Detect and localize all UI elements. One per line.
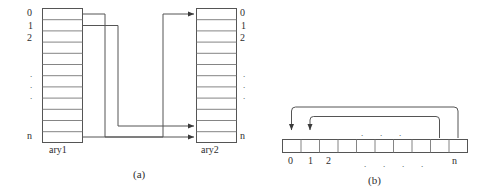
connection-0-to-n bbox=[83, 14, 195, 137]
panel-b-top-dot-3: . bbox=[399, 128, 401, 138]
ary1-name-label: ary1 bbox=[49, 145, 67, 155]
ary1-index-2: 2 bbox=[27, 33, 32, 43]
ary1-index-0: 0 bbox=[27, 8, 32, 18]
ary2-ellipsis-dots: . . . bbox=[243, 69, 245, 102]
ary1-ellipsis-dots: . . . bbox=[30, 69, 32, 102]
panel-b-bottom-dot-1: . bbox=[364, 159, 366, 169]
figure-container: 0 1 2 . . . n ary1 0 1 2 . . . n ary2 (a… bbox=[0, 0, 491, 194]
ary1-index-n: n bbox=[27, 131, 32, 141]
panel-b-bottom-dot-2: . bbox=[383, 159, 385, 169]
panel-b-top-dot-1: . bbox=[361, 128, 363, 138]
panel-b-bottom-dot-3: . bbox=[402, 159, 404, 169]
panel-b-connection-n1-to-1 bbox=[310, 117, 440, 139]
panel-b-connection-n-to-0 bbox=[292, 107, 459, 138]
ary2-index-1: 1 bbox=[241, 21, 246, 31]
ary2-index-0: 0 bbox=[240, 8, 245, 18]
panel-b-array bbox=[283, 140, 468, 153]
panel-b-top-dot-2: . bbox=[380, 128, 382, 138]
ary2-name-label: ary2 bbox=[201, 145, 219, 155]
panel-b-index-2: 2 bbox=[326, 156, 331, 166]
ary1-dot-1: . bbox=[30, 69, 32, 80]
ary1-dot-3: . bbox=[30, 91, 32, 102]
ary1-index-1: 1 bbox=[28, 21, 33, 31]
panel-b-caption: (b) bbox=[368, 175, 381, 186]
ary2-array bbox=[197, 9, 237, 143]
connection-1-to-n-minus-1 bbox=[83, 26, 195, 127]
ary1-dot-2: . bbox=[30, 80, 32, 91]
panel-a-caption: (a) bbox=[133, 169, 145, 180]
ary1-array bbox=[43, 9, 83, 143]
ary2-index-2: 2 bbox=[240, 33, 245, 43]
connection-n-to-0 bbox=[83, 14, 195, 137]
panel-b-index-0: 0 bbox=[288, 156, 293, 166]
ary2-dot-1: . bbox=[243, 69, 245, 80]
ary2-dot-3: . bbox=[243, 91, 245, 102]
ary2-index-n: n bbox=[240, 131, 245, 141]
panel-b-index-n: n bbox=[452, 156, 457, 166]
panel-b-index-1: 1 bbox=[308, 156, 313, 166]
panel-b-bottom-dot-4: . bbox=[421, 159, 423, 169]
ary2-dot-2: . bbox=[243, 80, 245, 91]
